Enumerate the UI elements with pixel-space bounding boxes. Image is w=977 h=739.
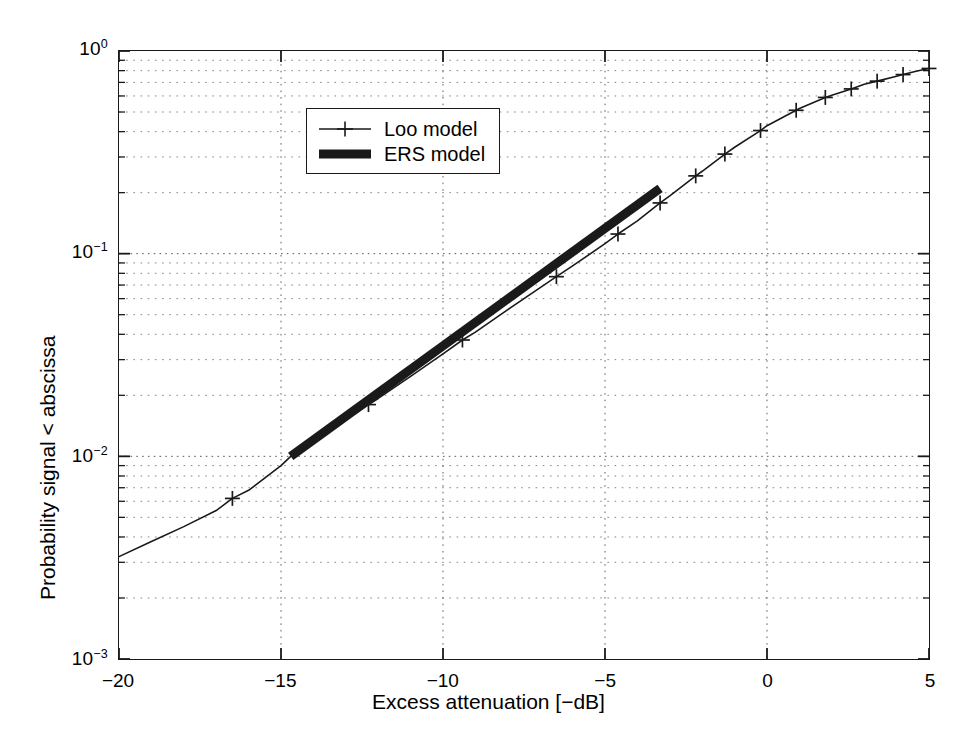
y-tick-label: 100: [79, 39, 108, 58]
legend-item-loo-model: Loo model: [317, 116, 485, 141]
y-tick-label: 10−1: [72, 242, 108, 261]
legend-label-loo-model: Loo model: [384, 119, 477, 139]
legend: Loo model ERS model: [306, 108, 500, 174]
x-tick-label: −5: [565, 671, 645, 690]
x-tick-label: −20: [78, 671, 158, 690]
legend-swatch-thick-line: [317, 144, 373, 164]
x-tick-label: −15: [240, 671, 320, 690]
y-tick-label: 10−3: [72, 649, 108, 668]
legend-label-ers-model: ERS model: [384, 144, 485, 164]
y-tick-label: 10−2: [72, 446, 108, 465]
y-axis-title: Probability signal < abscissa: [36, 336, 60, 600]
x-tick-label: 5: [890, 671, 970, 690]
x-tick-label: 0: [728, 671, 808, 690]
plot-area: [118, 50, 930, 660]
legend-swatch-line-plus-marker: [317, 119, 373, 139]
data-layer: [119, 51, 929, 659]
legend-item-ers-model: ERS model: [317, 141, 485, 166]
figure-root: 10−310−210−1100 −20−15−10−505 Excess att…: [0, 0, 977, 739]
x-tick-label: −10: [403, 671, 483, 690]
x-axis-title: Excess attenuation [−dB]: [0, 690, 977, 714]
